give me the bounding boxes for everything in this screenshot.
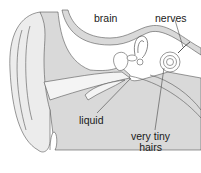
label-hairs-line2: hairs — [131, 142, 170, 153]
semicircular-canals — [134, 36, 147, 58]
cochlea — [160, 52, 180, 72]
label-nerves: nerves — [155, 13, 187, 24]
ossicles — [114, 52, 143, 70]
ear-illustration — [0, 0, 201, 173]
lobe-notch — [50, 132, 57, 150]
ear-diagram: brain nerves liquid very tiny hairs — [0, 0, 201, 173]
label-liquid: liquid — [79, 115, 104, 126]
label-very-tiny-hairs: very tiny hairs — [131, 131, 170, 153]
label-brain: brain — [94, 13, 117, 24]
